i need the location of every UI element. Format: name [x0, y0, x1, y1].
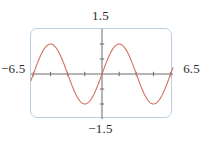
graphing-calculator-plot: 1.5 −6.5 6.5 −1.5	[0, 0, 201, 143]
y-axis-min-label: −1.5	[0, 122, 201, 135]
y-axis-max-label: 1.5	[0, 9, 201, 22]
plot-frame	[30, 28, 172, 118]
x-axis-max-label: 6.5	[183, 62, 200, 75]
plot-canvas	[31, 29, 173, 119]
x-axis-min-label: −6.5	[1, 62, 25, 75]
